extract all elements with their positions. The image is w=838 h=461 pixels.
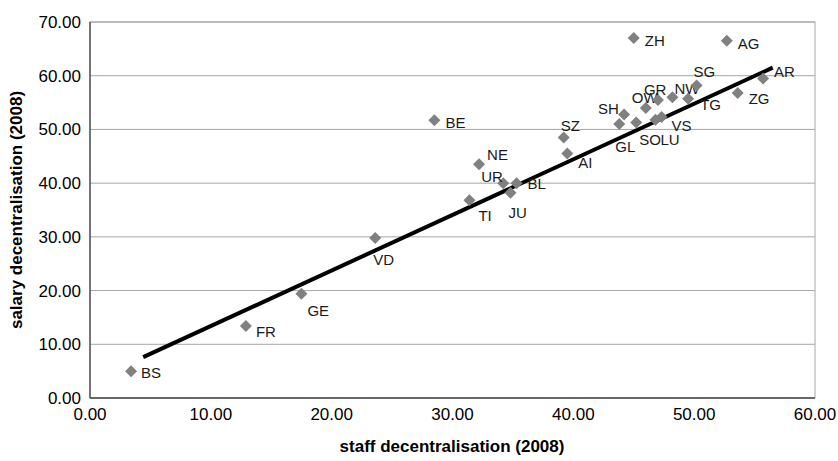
data-point-marker <box>561 148 573 160</box>
data-points: BSFRGEVDBETINEURJUBLSZAIGLSHZHSOOWLUGRVS… <box>125 32 795 381</box>
y-tick-label: 20.00 <box>38 282 81 301</box>
data-point-label: SG <box>694 63 716 80</box>
data-point-marker <box>628 32 640 44</box>
data-point-label: AI <box>578 154 592 171</box>
data-point-label: ZH <box>645 32 665 49</box>
y-tick-label: 60.00 <box>38 67 81 86</box>
data-point-label: TI <box>478 207 491 224</box>
y-tick-label: 70.00 <box>38 13 81 32</box>
data-point-marker <box>295 288 307 300</box>
x-axis-title: staff decentralisation (2008) <box>340 437 565 456</box>
data-point-label: UR <box>481 168 503 185</box>
data-point-label: TG <box>700 96 721 113</box>
y-tick-label: 10.00 <box>38 335 81 354</box>
data-point-label: NE <box>487 146 508 163</box>
data-point-label: JU <box>509 204 527 221</box>
data-point-marker <box>613 118 625 130</box>
x-tick-label: 30.00 <box>431 405 474 424</box>
data-point-label: SO <box>639 131 661 148</box>
data-point-marker <box>240 320 252 332</box>
y-tick-label: 40.00 <box>38 174 81 193</box>
x-tick-label: 40.00 <box>552 405 595 424</box>
chart-canvas: 0.0010.0020.0030.0040.0050.0060.0070.00 … <box>0 0 838 461</box>
x-tick-label: 10.00 <box>190 405 233 424</box>
data-point-marker <box>428 114 440 126</box>
data-point-marker <box>125 365 137 377</box>
data-point-marker <box>618 108 630 120</box>
data-point-label: ZG <box>749 90 770 107</box>
data-point-label: GE <box>307 302 329 319</box>
data-point-label: BE <box>445 114 465 131</box>
y-axis-title: salary decentralisation (2008) <box>7 91 26 329</box>
data-point-label: FR <box>256 323 276 340</box>
data-point-label: VD <box>373 251 394 268</box>
data-point-label: GR <box>644 81 667 98</box>
data-point-label: GL <box>615 138 635 155</box>
data-point-label: VS <box>672 117 692 134</box>
data-point-label: SZ <box>561 117 580 134</box>
x-tick-label: 20.00 <box>310 405 353 424</box>
y-tick-label: 30.00 <box>38 228 81 247</box>
data-point-label: SH <box>598 100 619 117</box>
x-tick-label: 50.00 <box>673 405 716 424</box>
trendline <box>143 68 773 358</box>
data-point-marker <box>369 232 381 244</box>
data-point-label: BS <box>141 364 161 381</box>
data-point-label: AR <box>774 63 795 80</box>
scatter-chart: 0.0010.0020.0030.0040.0050.0060.0070.00 … <box>0 0 838 461</box>
x-tick-label: 0.00 <box>73 405 106 424</box>
data-point-marker <box>732 87 744 99</box>
y-tick-label: 50.00 <box>38 120 81 139</box>
x-tick-label: 60.00 <box>794 405 837 424</box>
data-point-label: AG <box>738 35 760 52</box>
data-point-marker <box>721 35 733 47</box>
x-tick-labels: 0.0010.0020.0030.0040.0050.0060.00 <box>73 405 836 424</box>
y-tick-labels: 0.0010.0020.0030.0040.0050.0060.0070.00 <box>38 13 81 408</box>
data-point-label: BL <box>528 175 546 192</box>
